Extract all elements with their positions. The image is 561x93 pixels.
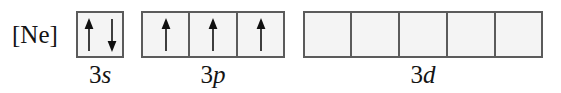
orbital-box-diagram: [Ne] — [0, 0, 561, 93]
subshell-letter: d — [423, 61, 436, 88]
orbital-box — [399, 11, 447, 58]
noble-gas-core-label: [Ne] — [12, 20, 72, 50]
spin-up-arrow-icon — [160, 18, 172, 52]
principal-quantum-number: 3 — [89, 61, 102, 88]
subshell-letter: p — [213, 61, 226, 88]
orbital-box — [303, 11, 351, 58]
principal-quantum-number: 3 — [411, 61, 424, 88]
subshell-group-3p — [141, 11, 285, 58]
electron-single — [143, 13, 188, 56]
orbital-box — [351, 11, 399, 58]
spin-up-arrow-icon — [255, 18, 267, 52]
orbital-box — [76, 11, 124, 58]
spin-up-arrow-icon — [83, 18, 95, 52]
orbital-box — [189, 11, 237, 58]
spin-down-arrow-icon — [106, 18, 118, 52]
spin-up-arrow-icon — [207, 18, 219, 52]
subshell-label-3p: 3p — [141, 60, 285, 90]
subshell-group-3s — [76, 11, 124, 58]
subshell-label-3s: 3s — [76, 60, 124, 90]
principal-quantum-number: 3 — [201, 61, 214, 88]
subshell-group-3d — [303, 11, 543, 58]
subshell-letter: s — [101, 61, 111, 88]
electron-single — [190, 13, 236, 56]
orbital-box — [237, 11, 285, 58]
subshell-label-3d: 3d — [303, 60, 543, 90]
electron-pair — [78, 13, 122, 56]
orbital-box — [141, 11, 189, 58]
electron-single — [238, 13, 283, 56]
orbital-box — [447, 11, 495, 58]
orbital-box — [495, 11, 543, 58]
